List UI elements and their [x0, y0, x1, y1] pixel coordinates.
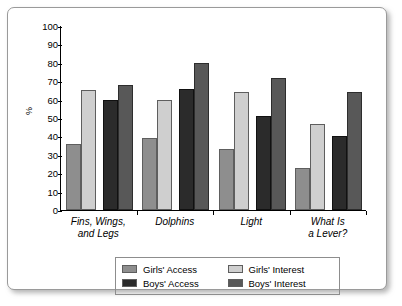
bar	[295, 168, 310, 210]
legend-label: Girls' Access	[143, 264, 197, 275]
bar	[81, 90, 96, 210]
legend-item-girls-interest: Girls' Interest	[228, 264, 334, 275]
bar	[310, 124, 325, 210]
legend-row: Girls' Access Girls' Interest	[122, 262, 333, 276]
y-tick-label: 40	[28, 133, 58, 143]
legend-label: Boys' Interest	[249, 278, 306, 289]
y-axis-line	[60, 26, 61, 211]
bar	[179, 89, 194, 210]
bar	[256, 116, 271, 210]
bar	[118, 85, 133, 210]
y-tick-label: 30	[28, 151, 58, 161]
bar-group	[295, 26, 362, 210]
legend-item-boys-interest: Boys' Interest	[228, 278, 334, 289]
y-tick-label: 100	[28, 22, 58, 32]
bar	[219, 149, 234, 210]
bar	[234, 92, 249, 210]
x-tick-mark	[290, 211, 291, 215]
x-axis-category-label: What Isa Lever?	[290, 216, 367, 240]
x-axis-category-line: Light	[213, 216, 290, 228]
legend-swatch-icon	[122, 279, 137, 287]
legend-label: Girls' Interest	[249, 264, 305, 275]
legend-item-girls-access: Girls' Access	[122, 264, 228, 275]
x-tick-mark	[366, 211, 367, 215]
legend-row: Boys' Access Boys' Interest	[122, 276, 333, 290]
x-axis-category-line: What Is	[290, 216, 367, 228]
y-axis-ticks: 1009080706050403020100	[26, 26, 58, 211]
legend-swatch-icon	[228, 279, 243, 287]
chart-legend: Girls' Access Girls' Interest Boys' Acce…	[115, 257, 340, 295]
y-tick-label: 10	[28, 188, 58, 198]
x-axis-category-line: Dolphins	[137, 216, 214, 228]
bar	[142, 138, 157, 210]
y-tick-mark	[58, 211, 62, 212]
plot-area	[60, 26, 366, 211]
legend-item-boys-access: Boys' Access	[122, 278, 228, 289]
bar	[66, 144, 81, 210]
legend-label: Boys' Access	[143, 278, 199, 289]
y-tick-label: 0	[28, 206, 58, 216]
bar	[157, 100, 172, 210]
bar	[103, 100, 118, 210]
x-axis-category-line: and Legs	[60, 228, 137, 240]
x-axis-category-line: Fins, Wings,	[60, 216, 137, 228]
bar-group	[142, 26, 209, 210]
bar	[332, 136, 347, 210]
y-tick-label: 20	[28, 169, 58, 179]
bar-group	[66, 26, 133, 210]
x-axis-category-label: Light	[213, 216, 290, 228]
bar-group	[219, 26, 286, 210]
x-axis-category-label: Fins, Wings,and Legs	[60, 216, 137, 240]
bar	[194, 63, 209, 210]
bar	[347, 92, 362, 210]
y-tick-label: 70	[28, 77, 58, 87]
y-tick-label: 90	[28, 41, 58, 51]
chart-figure: % 1009080706050403020100 Fins, Wings,and…	[7, 7, 387, 290]
y-tick-label: 50	[28, 114, 58, 124]
x-tick-mark	[213, 211, 214, 215]
y-tick-label: 80	[28, 59, 58, 69]
bar	[271, 78, 286, 210]
x-tick-mark	[137, 211, 138, 215]
y-tick-label: 60	[28, 96, 58, 106]
x-axis-category-label: Dolphins	[137, 216, 214, 228]
legend-swatch-icon	[122, 265, 137, 273]
legend-swatch-icon	[228, 265, 243, 273]
x-axis-category-line: a Lever?	[290, 228, 367, 240]
